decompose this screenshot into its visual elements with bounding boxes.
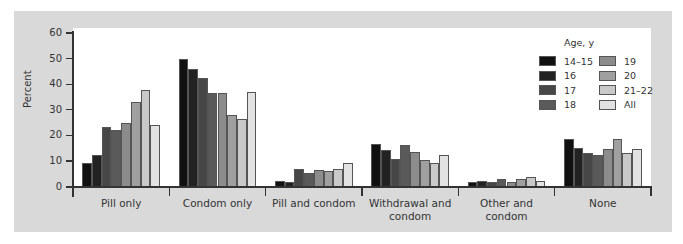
bar — [632, 149, 642, 187]
y-tick — [66, 109, 73, 110]
y-tick — [66, 58, 73, 59]
y-tick-label: 50 — [40, 54, 62, 64]
bar — [613, 139, 623, 187]
legend-title: Age, y — [564, 37, 594, 48]
bar — [285, 182, 295, 187]
x-tick — [650, 186, 651, 196]
bar — [275, 181, 285, 187]
legend-label: 20 — [624, 70, 636, 81]
legend-swatch — [599, 100, 616, 110]
bar — [430, 163, 440, 187]
legend-swatch — [599, 85, 616, 95]
y-tick-label: 0 — [40, 182, 62, 192]
bar — [314, 170, 324, 187]
bar — [420, 160, 430, 187]
bar — [227, 115, 237, 186]
bar — [593, 155, 603, 187]
bar — [536, 181, 546, 187]
legend: Age, y 14–15161718192021–22All — [536, 35, 646, 115]
legend-swatch — [539, 56, 556, 66]
y-tick-label: 60 — [40, 28, 62, 38]
legend-label: 16 — [564, 70, 576, 81]
x-tick — [458, 186, 459, 196]
legend-label: 17 — [564, 85, 576, 96]
x-tick — [361, 186, 362, 196]
bar — [82, 163, 92, 187]
y-tick-label: 20 — [40, 130, 62, 140]
legend-item: 14–15 — [539, 55, 593, 67]
bar — [92, 155, 102, 187]
legend-label: 14–15 — [564, 56, 593, 67]
x-tick — [169, 186, 170, 196]
bar — [141, 90, 151, 187]
bar — [111, 130, 121, 187]
bar — [391, 159, 401, 187]
bar — [102, 127, 112, 186]
x-category-label: Other and condom — [458, 197, 554, 223]
bar — [564, 139, 574, 187]
legend-label: 21–22 — [624, 85, 653, 96]
bar — [343, 163, 353, 187]
bar — [198, 78, 208, 187]
bar — [574, 148, 584, 187]
bar — [381, 150, 391, 187]
bar — [121, 123, 131, 186]
bar — [516, 179, 526, 187]
x-category-label: None — [555, 197, 651, 210]
legend-label: All — [624, 99, 636, 110]
bar — [218, 93, 228, 186]
y-tick — [66, 32, 73, 33]
bar — [439, 155, 449, 187]
bar — [410, 152, 420, 187]
bar — [324, 171, 334, 187]
bar — [400, 145, 410, 187]
bar — [487, 182, 497, 186]
bar — [477, 181, 487, 187]
y-tick-label: 30 — [40, 105, 62, 115]
x-tick — [72, 186, 73, 196]
legend-item: 20 — [599, 70, 636, 82]
bar — [622, 153, 632, 187]
bar — [468, 182, 478, 186]
legend-item: 21–22 — [599, 84, 653, 96]
bar — [294, 169, 304, 187]
bar — [603, 149, 613, 187]
bar — [247, 92, 257, 186]
y-tick-label: 40 — [40, 79, 62, 89]
y-tick-label: 10 — [40, 156, 62, 166]
legend-swatch — [599, 71, 616, 81]
legend-swatch — [539, 71, 556, 81]
bar — [208, 93, 218, 186]
legend-label: 19 — [624, 56, 636, 67]
x-tick — [265, 186, 266, 196]
bar — [304, 173, 314, 187]
bar — [583, 153, 593, 187]
legend-swatch — [539, 100, 556, 110]
y-tick — [66, 84, 73, 85]
bar — [371, 144, 381, 186]
bar — [150, 125, 160, 186]
bar — [131, 102, 141, 186]
x-category-label: Condom only — [169, 197, 265, 210]
legend-swatch — [599, 56, 616, 66]
legend-item: 16 — [539, 70, 576, 82]
y-tick — [66, 135, 73, 136]
bar — [179, 59, 189, 187]
legend-label: 18 — [564, 99, 576, 110]
legend-item: 18 — [539, 99, 576, 111]
legend-item: All — [599, 99, 636, 111]
bar — [333, 169, 343, 187]
y-axis — [72, 31, 74, 197]
x-category-label: Pill and condom — [266, 197, 362, 210]
bar — [507, 182, 517, 187]
legend-item: 17 — [539, 84, 576, 96]
x-category-label: Withdrawal and condom — [362, 197, 458, 223]
bar — [188, 69, 198, 187]
x-category-label: Pill only — [73, 197, 169, 210]
bar — [237, 119, 247, 186]
y-axis-title: Percent — [22, 70, 33, 108]
bar — [526, 177, 536, 187]
bar — [497, 179, 507, 187]
x-tick — [554, 186, 555, 196]
legend-item: 19 — [599, 55, 636, 67]
